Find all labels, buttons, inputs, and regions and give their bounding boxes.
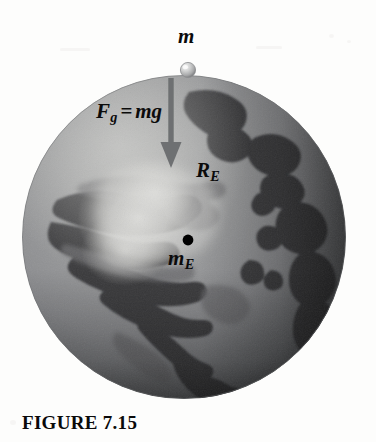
scan-speckle [329,34,334,38]
earth-globe [21,74,347,400]
label-earth-mass: mE [168,248,194,271]
label-force: Fg=mg [96,101,162,124]
force-symbol: F [96,99,110,123]
scan-speckle [10,420,16,425]
force-equals: = [120,99,132,123]
figure-page: m Fg=mg RE mE FIGURE 7.15 [0,0,376,442]
scan-speckle [60,48,90,51]
scan-grain [22,75,346,399]
earth-mass-subscript: E [185,256,195,272]
scan-speckle [347,40,351,43]
globe-surface [22,75,346,400]
force-subscript: g [110,109,117,125]
label-point-mass: m [178,26,194,47]
label-point-mass-text: m [178,24,194,48]
force-expression: mg [135,99,162,123]
label-earth-radius: RE [196,160,220,183]
radius-symbol: R [196,158,210,182]
scan-speckle [256,46,282,49]
radius-subscript: E [210,168,220,184]
earth-mass-symbol: m [168,246,184,270]
figure-caption: FIGURE 7.15 [22,412,137,434]
